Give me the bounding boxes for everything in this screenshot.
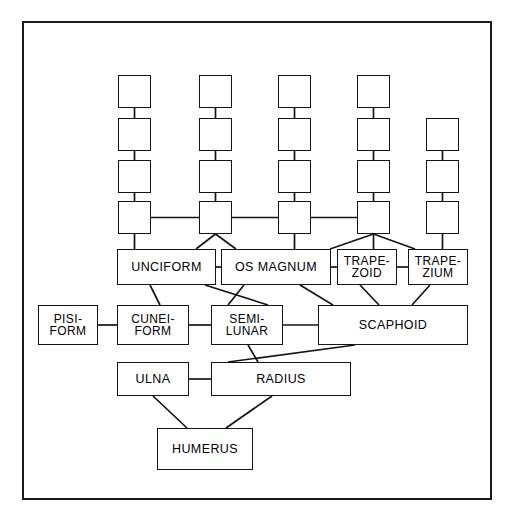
bone-node-c1r3[interactable] [118,160,151,193]
link-c2r4-os-magnum [216,234,237,249]
link-trapezoid-scaphoid [360,285,379,305]
bone-node-pisiform[interactable]: PISI- FORM [38,305,98,345]
link-radius-humerus [226,396,272,428]
link-c4r4-os-magnum [330,234,374,249]
link-ulna-humerus [153,396,187,428]
bone-node-c4r1[interactable] [357,75,390,108]
bone-node-c3r2[interactable] [278,118,311,151]
bone-node-c2r2[interactable] [199,118,232,151]
link-c4r4-trapezium [374,234,416,249]
bone-node-ulna[interactable]: ULNA [117,362,189,396]
bone-node-c1r4[interactable] [118,201,151,234]
bone-node-c2r3[interactable] [199,160,232,193]
bone-node-c3r3[interactable] [278,160,311,193]
bone-node-c5r1[interactable] [426,118,459,151]
bone-node-radius[interactable]: RADIUS [211,362,351,396]
link-os-magnum-scaphoid [300,285,333,305]
bone-node-scaphoid[interactable]: SCAPHOID [318,305,468,345]
link-uniciform-cuneiform [150,285,160,305]
bone-node-semilunar[interactable]: SEMI- LUNAR [211,305,283,345]
bone-node-uniciform[interactable]: UNCIFORM [117,249,216,285]
bone-node-c4r2[interactable] [357,118,390,151]
bone-node-os-magnum[interactable]: OS MAGNUM [221,249,331,285]
link-c2r4-uniciform [196,234,216,249]
bone-node-humerus[interactable]: HUMERUS [157,428,253,470]
bone-node-c2r1[interactable] [199,75,232,108]
link-os-magnum-semilunar [228,285,244,305]
bone-node-c2r4[interactable] [199,201,232,234]
bone-node-c4r4[interactable] [357,201,390,234]
bone-node-cuneiform[interactable]: CUNEI- FORM [117,305,189,345]
bone-node-c3r1[interactable] [278,75,311,108]
bone-node-c1r2[interactable] [118,118,151,151]
bone-node-c5r3[interactable] [426,201,459,234]
bone-node-trapezium[interactable]: TRAPE- ZIUM [408,249,468,285]
bone-node-c3r4[interactable] [278,201,311,234]
bone-node-c4r3[interactable] [357,160,390,193]
bone-node-c5r2[interactable] [426,160,459,193]
bone-node-c1r1[interactable] [118,75,151,108]
bone-node-trapezoid[interactable]: TRAPE- ZOID [337,249,397,285]
link-scaphoid-radius [228,345,355,362]
link-trapezium-scaphoid [412,285,430,305]
